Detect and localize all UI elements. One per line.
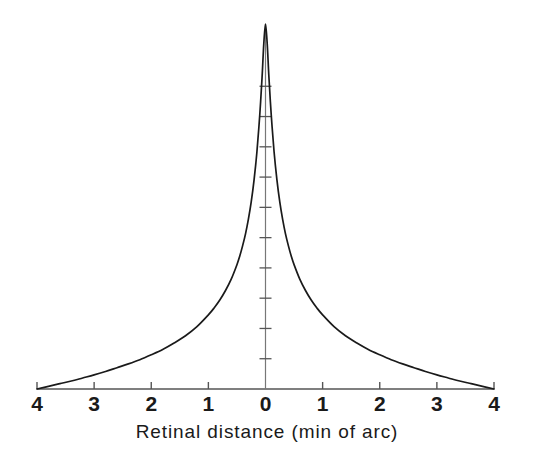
x-axis-tick-label: 1 bbox=[203, 392, 215, 415]
x-axis-tick-label: 2 bbox=[145, 392, 157, 415]
x-axis-tick-label: 3 bbox=[88, 392, 100, 415]
x-axis-title: Retinal distance (min of arc) bbox=[136, 421, 399, 442]
x-axis-tick-label: 2 bbox=[374, 392, 386, 415]
chart-canvas: 432101234 Retinal distance (min of arc) bbox=[0, 0, 537, 456]
x-axis-tick-label: 1 bbox=[317, 392, 329, 415]
line-spread-function-figure: 432101234 Retinal distance (min of arc) bbox=[0, 0, 537, 456]
x-axis-tick-label: 3 bbox=[431, 392, 443, 415]
x-axis-tick-label: 0 bbox=[260, 392, 272, 415]
x-axis-tick-label: 4 bbox=[31, 392, 43, 415]
x-axis-tick-label: 4 bbox=[488, 392, 500, 415]
